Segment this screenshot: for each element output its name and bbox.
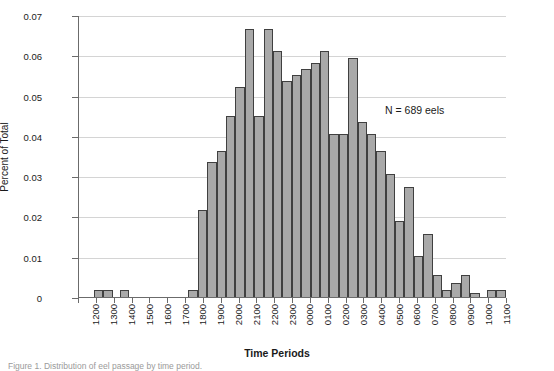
x-tick-label: 0200 [340, 304, 351, 325]
x-tick-label: 1900 [215, 304, 226, 325]
bar [103, 290, 112, 297]
x-tick-mark [435, 298, 436, 303]
x-tick-label: 1800 [197, 304, 208, 325]
x-tick-mark [470, 298, 471, 303]
x-tick-mark [114, 298, 115, 303]
bar [120, 290, 129, 297]
x-tick-label: 1200 [90, 304, 101, 325]
bar [254, 116, 263, 297]
x-tick-mark [453, 298, 454, 303]
x-tick-label: 1100 [501, 304, 512, 324]
x-tick-label: 2100 [251, 304, 262, 325]
y-tick-label: 0.02 [0, 212, 42, 223]
y-tick-label: 0.06 [0, 51, 42, 62]
bar [273, 51, 282, 297]
bar [404, 187, 413, 297]
x-tick-mark [363, 298, 364, 303]
x-tick-label: 1000 [483, 304, 494, 325]
bar [339, 134, 348, 297]
y-tick-label: 0.03 [0, 172, 42, 183]
plot-area [78, 16, 506, 298]
bar [264, 29, 273, 297]
y-tick-label: 0.07 [0, 11, 42, 22]
y-tick-label: 0 [0, 293, 42, 304]
y-tick-label: 0.04 [0, 131, 42, 142]
x-axis-labels: 1200130014001500160017001800190020002100… [78, 304, 506, 346]
bar [292, 75, 301, 297]
x-tick-mark [221, 298, 222, 303]
bar [188, 290, 197, 297]
x-tick-label: 1400 [126, 304, 137, 325]
x-tick-label: 0400 [376, 304, 387, 325]
x-tick-mark [274, 298, 275, 303]
y-tick-label: 0.05 [0, 91, 42, 102]
x-tick-label: 0000 [304, 304, 315, 325]
bar [301, 69, 310, 297]
bar [217, 151, 226, 297]
x-tick-mark [417, 298, 418, 303]
bar [487, 290, 496, 297]
x-tick-label: 1700 [180, 304, 191, 325]
bar [348, 58, 357, 297]
x-tick-mark [78, 298, 79, 303]
x-tick-mark [310, 298, 311, 303]
x-tick-mark [149, 298, 150, 303]
bar [470, 293, 479, 297]
bar [451, 283, 460, 297]
figure-caption: Figure 1. Distribution of eel passage by… [8, 361, 548, 371]
bar [496, 290, 505, 297]
bar [461, 275, 470, 297]
x-tick-mark [132, 298, 133, 303]
x-tick-mark [239, 298, 240, 303]
bar [198, 210, 207, 297]
x-tick-label: 0900 [465, 304, 476, 325]
bar [414, 256, 423, 297]
x-tick-mark [328, 298, 329, 303]
x-tick-label: 1500 [144, 304, 155, 325]
bar [282, 81, 291, 297]
x-tick-label: 2000 [233, 304, 244, 325]
bar [329, 134, 338, 297]
x-tick-label: 0600 [411, 304, 422, 325]
x-tick-label: 0300 [358, 304, 369, 325]
x-tick-mark [96, 298, 97, 303]
bar-series [79, 16, 506, 297]
x-tick-mark [167, 298, 168, 303]
x-tick-mark [203, 298, 204, 303]
x-tick-label: 2300 [287, 304, 298, 325]
bar [245, 29, 254, 297]
x-tick-label: 2200 [269, 304, 280, 325]
x-tick-mark [506, 298, 507, 303]
x-tick-label: 0100 [322, 304, 333, 325]
x-tick-label: 1300 [108, 304, 119, 325]
bar [395, 221, 404, 297]
y-tick-label: 0.01 [0, 252, 42, 263]
bar [226, 116, 235, 297]
x-axis-ticks [78, 298, 506, 303]
bar [358, 122, 367, 297]
bar [320, 51, 329, 297]
x-tick-mark [256, 298, 257, 303]
x-tick-label: 0500 [394, 304, 405, 325]
x-tick-mark [346, 298, 347, 303]
bar [207, 162, 216, 297]
x-tick-label: 1600 [162, 304, 173, 325]
bar [442, 290, 451, 297]
x-tick-label: 0800 [447, 304, 458, 325]
x-axis-title: Time Periods [0, 347, 554, 359]
bar [423, 234, 432, 297]
bar [311, 63, 320, 297]
bar [94, 290, 103, 297]
x-tick-mark [381, 298, 382, 303]
x-tick-mark [292, 298, 293, 303]
x-tick-label: 0700 [429, 304, 440, 325]
bar [376, 151, 385, 297]
x-tick-mark [488, 298, 489, 303]
sample-size-annotation: N = 689 eels [385, 104, 444, 116]
x-tick-mark [185, 298, 186, 303]
bar [235, 87, 244, 297]
bar [433, 275, 442, 297]
bar [386, 174, 395, 297]
x-tick-mark [399, 298, 400, 303]
